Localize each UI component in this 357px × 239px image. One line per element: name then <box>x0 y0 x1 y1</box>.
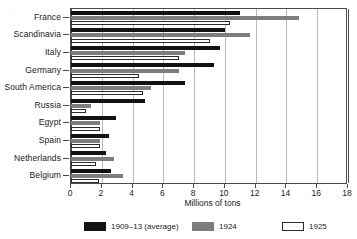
x-tick-label: 2 <box>98 188 103 198</box>
bar <box>71 33 250 37</box>
legend-item[interactable]: 1925 <box>282 222 327 231</box>
bar-group <box>71 27 346 45</box>
bar <box>71 127 100 131</box>
bar <box>71 151 106 155</box>
legend-swatch-icon <box>192 222 214 231</box>
category-label: Germany <box>25 65 61 75</box>
legend-swatch-icon <box>282 222 304 231</box>
bar-group <box>71 132 346 150</box>
bar <box>71 134 109 138</box>
bar <box>71 81 185 85</box>
category-label: Egypt <box>39 117 61 127</box>
category-tick <box>63 34 69 35</box>
category-label: France <box>34 12 61 22</box>
legend-swatch-icon <box>84 222 106 231</box>
gridline-18 <box>348 9 349 183</box>
bar <box>71 74 139 78</box>
bar <box>71 139 100 143</box>
bar <box>71 39 210 43</box>
bar-group <box>71 62 346 80</box>
bar <box>71 109 86 113</box>
bar-group <box>71 79 346 97</box>
category-label: Russia <box>34 100 61 110</box>
category-tick <box>63 105 69 106</box>
category-tick <box>63 70 69 71</box>
bar <box>71 169 111 173</box>
category-tick <box>63 17 69 18</box>
legend-item[interactable]: 1909–13 (average) <box>84 222 179 231</box>
bar-group <box>71 44 346 62</box>
bar <box>71 157 114 161</box>
x-tick-label: 0 <box>68 188 73 198</box>
bar <box>71 69 179 73</box>
bar <box>71 86 151 90</box>
chart-legend: 1909–13 (average)19241925 <box>70 222 347 234</box>
bar <box>71 104 91 108</box>
category-label: Spain <box>39 135 61 145</box>
x-tick-label: 6 <box>160 188 165 198</box>
bar-group <box>71 9 346 27</box>
legend-label: 1924 <box>219 222 237 231</box>
category-tick <box>63 158 69 159</box>
bar-groups <box>71 9 346 183</box>
category-label: Belgium <box>30 170 61 180</box>
bar <box>71 46 220 50</box>
category-label: Netherlands <box>14 153 61 163</box>
x-axis-title-text: Millions of tons <box>184 198 240 208</box>
bar <box>71 116 116 120</box>
x-tick-label: 8 <box>191 188 196 198</box>
bar-group <box>71 167 346 185</box>
bar <box>71 63 214 67</box>
legend-label: 1909–13 (average) <box>111 222 179 231</box>
chart-container: · FranceScandinaviaItalyGermanySouth Ame… <box>0 0 357 239</box>
category-tick <box>63 140 69 141</box>
plot-area <box>70 8 347 184</box>
bar <box>71 162 96 166</box>
bar-group <box>71 150 346 168</box>
bar <box>71 91 143 95</box>
bar <box>71 99 145 103</box>
category-label: Italy <box>45 47 61 57</box>
category-axis: FranceScandinaviaItalyGermanySouth Ameri… <box>0 8 70 184</box>
x-tick-label: 16 <box>311 188 320 198</box>
bar <box>71 21 230 25</box>
bar <box>71 51 185 55</box>
x-tick-label: 10 <box>219 188 228 198</box>
x-tick-label: 12 <box>250 188 259 198</box>
category-tick <box>63 175 69 176</box>
x-axis-title: Millions of tons <box>0 198 357 208</box>
category-tick <box>63 87 69 88</box>
x-axis-ticks: 024681012141618 <box>70 184 347 196</box>
bar <box>71 16 299 20</box>
x-tick-label: 18 <box>342 188 351 198</box>
category-tick <box>63 52 69 53</box>
bar <box>71 56 179 60</box>
category-tick <box>63 122 69 123</box>
bar-group <box>71 115 346 133</box>
bar <box>71 179 99 183</box>
bar <box>71 11 240 15</box>
legend-item[interactable]: 1924 <box>192 222 237 231</box>
category-label: Scandinavia <box>14 29 61 39</box>
bar <box>71 121 100 125</box>
x-tick-label: 14 <box>281 188 290 198</box>
category-label: South America <box>4 82 61 92</box>
bar <box>71 144 100 148</box>
bar <box>71 28 225 32</box>
legend-label: 1925 <box>309 222 327 231</box>
bar <box>71 174 123 178</box>
x-tick-label: 4 <box>129 188 134 198</box>
bar-group <box>71 97 346 115</box>
